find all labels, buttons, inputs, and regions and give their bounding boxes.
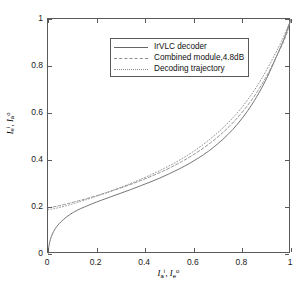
x-axis-tick: [291, 19, 292, 23]
y-axis-title-sep: ,: [5, 122, 15, 127]
x-axis-tick: [145, 19, 146, 23]
y-axis-tick-label: 0.8: [23, 60, 43, 70]
x-axis-title: Iai, Ieo: [47, 268, 290, 279]
legend-item-decoding-trajectory: Decoding trajectory: [114, 63, 244, 74]
y-axis-title-var1: I: [5, 131, 15, 134]
legend-label: Combined module,4.8dB: [154, 52, 244, 63]
x-axis-title-sup2: o: [176, 268, 179, 274]
x-axis-tick-label: 0.6: [187, 257, 199, 267]
x-axis-tick: [291, 248, 292, 252]
x-axis-tick-label: 0.4: [138, 257, 150, 267]
y-axis-tick: [285, 19, 289, 20]
x-axis-tick: [242, 19, 243, 23]
x-axis-tick-label: 1: [288, 257, 293, 267]
y-axis-tick: [48, 66, 52, 67]
x-axis-tick: [194, 248, 195, 252]
legend-box: IrVLC decoder Combined module,4.8dB Deco…: [110, 38, 249, 77]
legend-item-irvlc-decoder: IrVLC decoder: [114, 41, 244, 52]
y-axis-tick-label: 1: [23, 13, 43, 23]
x-axis-tick: [97, 19, 98, 23]
y-axis-tick: [48, 19, 52, 20]
y-axis-title-sup2: o: [5, 112, 11, 115]
y-axis-tick: [285, 207, 289, 208]
y-axis-tick-label: 0.6: [23, 107, 43, 117]
y-axis-title: Iei, Iao: [5, 93, 16, 153]
x-axis-tick: [97, 248, 98, 252]
x-axis-tick: [145, 248, 146, 252]
y-axis-title-sub1: e: [9, 128, 15, 131]
legend-label: Decoding trajectory: [154, 63, 225, 74]
legend-label: IrVLC decoder: [154, 41, 207, 52]
y-axis-tick: [285, 160, 289, 161]
legend-item-combined-module: Combined module,4.8dB: [114, 52, 244, 63]
y-axis-title-sub2: a: [9, 116, 15, 119]
y-axis-tick-label: 0.4: [23, 154, 43, 164]
y-axis-tick: [285, 254, 289, 255]
x-axis-tick-label: 0.8: [235, 257, 247, 267]
x-axis-tick: [48, 248, 49, 252]
y-axis-tick-label: 0: [23, 248, 43, 258]
y-axis-title-var2: I: [5, 119, 15, 122]
x-axis-tick-label: 0: [45, 257, 50, 267]
y-axis-tick: [48, 160, 52, 161]
y-axis-tick: [48, 254, 52, 255]
x-axis-tick-label: 0.2: [90, 257, 102, 267]
y-axis-title-sup1: i: [5, 127, 11, 128]
y-axis-tick: [48, 113, 52, 114]
y-axis-tick: [285, 66, 289, 67]
y-axis-tick: [285, 113, 289, 114]
y-axis-tick-label: 0.2: [23, 201, 43, 211]
plot-area: IrVLC decoder Combined module,4.8dB Deco…: [47, 18, 290, 253]
x-axis-tick: [194, 19, 195, 23]
exit-chart-figure: IrVLC decoder Combined module,4.8dB Deco…: [0, 0, 306, 299]
y-axis-tick: [48, 207, 52, 208]
x-axis-tick: [242, 248, 243, 252]
